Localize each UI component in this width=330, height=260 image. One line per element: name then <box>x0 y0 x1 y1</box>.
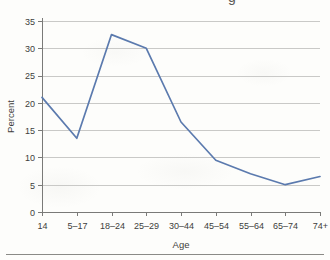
x-tick-label: 5–17 <box>67 221 87 231</box>
y-tick-label: 15 <box>25 126 35 136</box>
x-tick-label: 74+ <box>313 221 328 231</box>
x-tick-label: 55–64 <box>239 221 264 231</box>
x-axis-tick-labels-group: 145–1718–2425–2930–4445–5455–6465–7474+ <box>37 221 328 231</box>
x-tick-label: 45–54 <box>204 221 229 231</box>
bottom-horizontal-rule <box>6 254 324 255</box>
y-tick-label: 25 <box>25 71 35 81</box>
x-tick-label: 65–74 <box>273 221 298 231</box>
x-tick-label: 30–44 <box>169 221 194 231</box>
y-tick-label: 30 <box>25 44 35 54</box>
chart-svg: 05101520253035 145–1718–2425–2930–4445–5… <box>0 0 330 260</box>
x-tick-label: 14 <box>37 221 47 231</box>
y-tick-label: 5 <box>30 181 35 191</box>
data-series-line <box>42 35 320 185</box>
y-tick-label: 10 <box>25 153 35 163</box>
x-tick-label: 18–24 <box>100 221 125 231</box>
gridlines-group <box>42 22 320 186</box>
y-tick-label: 20 <box>25 99 35 109</box>
x-tick-label: 25–29 <box>134 221 159 231</box>
x-axis-title: Age <box>173 239 190 250</box>
figure-page: g 05101520253035 145–1718–2425–2930–4445… <box>0 0 330 260</box>
y-axis-tick-labels-group: 05101520253035 <box>25 17 42 218</box>
line-chart: 05101520253035 145–1718–2425–2930–4445–5… <box>0 0 330 260</box>
y-tick-label: 35 <box>25 17 35 27</box>
y-axis-title: Percent <box>5 100 16 133</box>
y-tick-label: 0 <box>30 208 35 218</box>
